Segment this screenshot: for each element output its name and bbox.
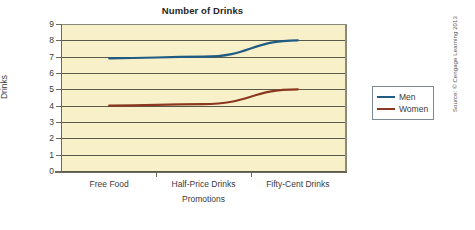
- plot-area-wrapper: [62, 24, 345, 171]
- y-axis-tick-labels: 0123456789: [28, 24, 54, 171]
- y-axis-tick: [56, 57, 61, 58]
- y-axis-title: Drinks: [0, 75, 9, 99]
- y-axis-tick: [56, 73, 61, 74]
- y-axis-tick: [56, 40, 61, 41]
- y-axis-tick-label: 9: [32, 19, 54, 29]
- x-axis-tick-label: Half-Price Drinks: [172, 179, 236, 189]
- y-axis-tick-label: 0: [32, 166, 54, 176]
- y-axis-tick: [56, 122, 61, 123]
- y-axis-tick: [56, 138, 61, 139]
- chart-legend: Men Women: [372, 86, 434, 120]
- y-axis-tick: [56, 24, 61, 25]
- chart-figure: Number of Drinks 0123456789 Drinks Free …: [0, 0, 475, 230]
- legend-label-women: Women: [399, 105, 428, 114]
- legend-swatch-women: [377, 108, 395, 110]
- x-axis-tick-label: Free Food: [90, 179, 129, 189]
- legend-label-men: Men: [399, 93, 416, 102]
- y-axis-tick: [56, 155, 61, 156]
- y-axis-tick-label: 1: [32, 150, 54, 160]
- x-axis-title: Promotions: [62, 194, 345, 204]
- y-axis-tick: [56, 89, 61, 90]
- y-axis-tick-label: 7: [32, 52, 54, 62]
- legend-swatch-men: [377, 96, 395, 98]
- source-credit: Source: © Cengage Learning 2013: [452, 16, 458, 112]
- y-axis-tick: [56, 171, 61, 172]
- x-axis-tick: [156, 172, 157, 177]
- series-lines: [62, 24, 345, 171]
- gridline: [62, 171, 345, 172]
- legend-item-men: Men: [377, 91, 430, 103]
- series-line-men: [109, 40, 298, 58]
- legend-item-women: Women: [377, 103, 430, 115]
- y-axis-tick: [56, 106, 61, 107]
- y-axis-tick-label: 2: [32, 133, 54, 143]
- y-axis-tick-label: 5: [32, 84, 54, 94]
- y-axis-tick-label: 3: [32, 117, 54, 127]
- series-line-women: [109, 89, 298, 105]
- y-axis-tick-label: 6: [32, 68, 54, 78]
- y-axis-tick-label: 8: [32, 35, 54, 45]
- x-axis-tick: [251, 172, 252, 177]
- y-axis-tick-label: 4: [32, 101, 54, 111]
- chart-title: Number of Drinks: [60, 5, 345, 16]
- x-axis-tick-label: Fifty-Cent Drinks: [266, 179, 329, 189]
